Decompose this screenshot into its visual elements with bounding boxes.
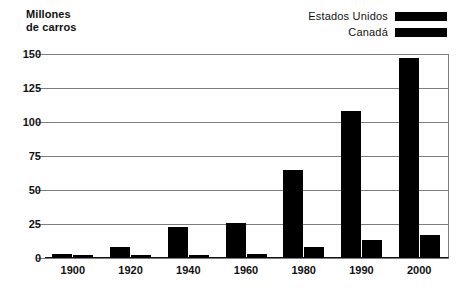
x-tick-label-1940: 1940 [176, 264, 200, 276]
bar-group-1920 [110, 247, 151, 258]
bar-canada-1900 [73, 255, 93, 258]
bar-group-1900 [52, 254, 93, 258]
x-tick-label-1920: 1920 [118, 264, 142, 276]
y-axis-title: Millones de carros [26, 8, 76, 34]
gridline-75 [45, 156, 449, 157]
y-tick-label-0: 0 [35, 252, 41, 264]
bar-group-1980 [283, 170, 324, 258]
plot-area: 0255075100125150 19001920194019601980199… [45, 54, 449, 258]
bar-estados-unidos-2000 [399, 58, 419, 258]
chart-legend: Estados Unidos Canadá [262, 9, 447, 41]
bar-canada-1980 [304, 247, 324, 258]
x-tick-label-1990: 1990 [349, 264, 373, 276]
bar-group-1990 [341, 111, 382, 258]
gridline-100 [45, 122, 449, 123]
legend-item-canada: Canadá [262, 25, 447, 39]
bar-group-1960 [226, 223, 267, 258]
bar-estados-unidos-1940 [168, 227, 188, 258]
y-tick-label-100: 100 [23, 116, 41, 128]
bar-group-1940 [168, 227, 209, 258]
bar-canada-1940 [189, 255, 209, 258]
legend-item-estados-unidos: Estados Unidos [262, 9, 447, 23]
bar-canada-1920 [131, 255, 151, 258]
legend-swatch-estados-unidos [395, 12, 447, 21]
bar-canada-2000 [420, 235, 440, 258]
y-tick-label-25: 25 [29, 218, 41, 230]
y-tick-label-75: 75 [29, 150, 41, 162]
x-tick-label-1960: 1960 [234, 264, 258, 276]
chart-container: Millones de carros Estados Unidos Canadá… [0, 0, 459, 300]
bar-group-2000 [399, 58, 440, 258]
x-tick-label-1980: 1980 [291, 264, 315, 276]
x-tick-label-2000: 2000 [407, 264, 431, 276]
y-tick-label-125: 125 [23, 82, 41, 94]
y-tick-label-150: 150 [23, 48, 41, 60]
legend-label-estados-unidos: Estados Unidos [308, 10, 388, 22]
bar-canada-1960 [247, 254, 267, 258]
bar-estados-unidos-1920 [110, 247, 130, 258]
bar-canada-1990 [362, 240, 382, 258]
x-tick-label-1900: 1900 [61, 264, 85, 276]
bar-estados-unidos-1960 [226, 223, 246, 258]
bar-estados-unidos-1990 [341, 111, 361, 258]
gridline-150 [45, 54, 449, 55]
y-tick-label-50: 50 [29, 184, 41, 196]
legend-label-canada: Canadá [348, 26, 388, 38]
legend-swatch-canada [395, 28, 447, 37]
gridline-50 [45, 190, 449, 191]
bar-estados-unidos-1980 [283, 170, 303, 258]
bar-estados-unidos-1900 [52, 254, 72, 258]
gridline-0 [45, 258, 449, 259]
gridline-125 [45, 88, 449, 89]
